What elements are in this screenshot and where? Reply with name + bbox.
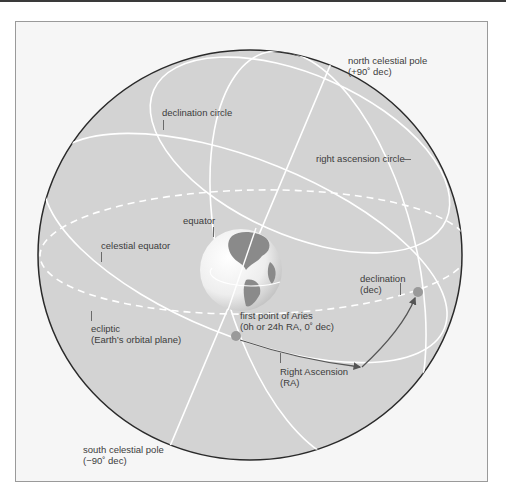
first-point-of-aries-marker	[231, 331, 241, 341]
first-point-of-aries-coords-label: (0h or 24h RA, 0˚ dec)	[240, 321, 334, 332]
declination-leader	[400, 283, 401, 295]
south-pole-dec-label: (−90˚ dec)	[83, 455, 127, 466]
right-ascension-leader	[280, 353, 281, 363]
right-ascension-circle-label: right ascension circle	[316, 153, 405, 164]
right-ascension-abbrev-label: (RA)	[280, 377, 300, 388]
star-position-marker	[413, 287, 423, 297]
ecliptic-label: ecliptic	[91, 323, 120, 334]
equator-leader	[213, 227, 214, 237]
north-pole-label: north celestial pole	[348, 55, 427, 66]
right-ascension-label: Right Ascension	[280, 366, 348, 377]
declination-circle-leader	[163, 120, 164, 130]
celestial-equator-leader	[101, 252, 102, 262]
declination-label: declination	[360, 273, 405, 284]
ecliptic-leader	[91, 311, 92, 321]
south-pole-label: south celestial pole	[83, 444, 164, 455]
celestial-sphere-diagram	[0, 0, 506, 502]
equator-label: equator	[183, 215, 215, 226]
north-pole-dec-label: (+90˚ dec)	[348, 66, 392, 77]
declination-abbrev-label: (dec)	[360, 284, 382, 295]
declination-circle-label: declination circle	[162, 107, 232, 118]
ecliptic-subtitle-label: (Earth’s orbital plane)	[91, 334, 181, 345]
right-ascension-circle-leader	[402, 159, 411, 160]
first-point-of-aries-label: first point of Aries	[240, 310, 313, 321]
celestial-equator-label: celestial equator	[101, 240, 170, 251]
